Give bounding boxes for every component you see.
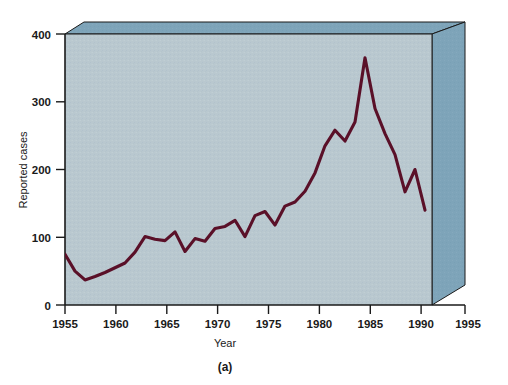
- figure-panel-a: 0 100 200 300 400 1955 1960 1965 1970 19…: [0, 0, 508, 385]
- x-tick-label-1955: 1955: [52, 318, 78, 330]
- x-tick-label-1965: 1965: [154, 318, 180, 330]
- y-tick-label-100: 100: [32, 232, 51, 244]
- x-tick-label-1960: 1960: [103, 318, 129, 330]
- y-tick-label-200: 200: [32, 164, 51, 176]
- x-tick-label-1975: 1975: [256, 318, 282, 330]
- y-tick-label-300: 300: [32, 96, 51, 108]
- x-tick-label-1970: 1970: [205, 318, 231, 330]
- y-tick-label-400: 400: [32, 29, 51, 41]
- panel-caption: (a): [218, 360, 233, 374]
- x-axis-title: Year: [214, 337, 237, 349]
- x-tick-label-1995: 1995: [455, 318, 481, 330]
- reported-cases-line-chart: 0 100 200 300 400 1955 1960 1965 1970 19…: [0, 0, 508, 385]
- plot-box-top-face: [65, 22, 465, 34]
- x-tick-label-1980: 1980: [307, 318, 333, 330]
- y-tick-label-0: 0: [45, 300, 51, 312]
- x-axis-tick-labels: 1955 1960 1965 1970 1975 1980 1985 1990 …: [52, 318, 481, 330]
- x-tick-label-1990: 1990: [408, 318, 434, 330]
- y-axis-title: Reported cases: [17, 131, 29, 209]
- x-tick-label-1985: 1985: [358, 318, 384, 330]
- plot-box-right-face: [432, 22, 465, 305]
